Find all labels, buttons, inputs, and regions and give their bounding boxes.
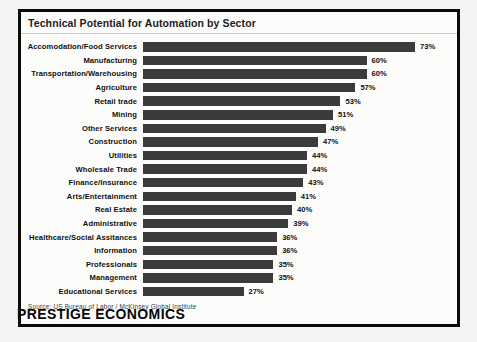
bar-row: Information36% [21, 244, 457, 258]
bar [143, 205, 292, 215]
bar-track: 43% [143, 176, 457, 190]
bar [143, 151, 307, 161]
bar-row: Retail trade53% [21, 94, 457, 108]
category-label: Manufacturing [21, 56, 143, 65]
bar-track: 57% [143, 81, 457, 95]
bar-row: Management35% [21, 271, 457, 285]
category-label: Real Estate [21, 205, 143, 214]
value-label: 39% [293, 219, 308, 228]
value-label: 27% [249, 287, 264, 296]
category-label: Management [21, 273, 143, 282]
bar-track: 60% [143, 67, 457, 81]
bar [143, 56, 367, 66]
bar-track: 53% [143, 94, 457, 108]
value-label: 35% [278, 273, 293, 282]
value-label: 40% [297, 205, 312, 214]
value-label: 51% [338, 110, 353, 119]
bar [143, 219, 288, 229]
bar-row: Finance/Insurance43% [21, 176, 457, 190]
bar-track: 47% [143, 135, 457, 149]
chart-body: Accomodation/Food Services73%Manufacturi… [21, 34, 457, 310]
category-label: Other Services [21, 124, 143, 133]
bar-track: 51% [143, 108, 457, 122]
value-label: 44% [312, 165, 327, 174]
value-label: 41% [301, 192, 316, 201]
value-label: 36% [282, 246, 297, 255]
value-label: 36% [282, 233, 297, 242]
category-label: Transportation/Warehousing [21, 69, 143, 78]
bar-track: 40% [143, 203, 457, 217]
category-label: Agriculture [21, 83, 143, 92]
bar [143, 83, 355, 93]
bar-track: 27% [143, 285, 457, 299]
chart-title: Technical Potential for Automation by Se… [21, 12, 457, 34]
value-label: 35% [278, 260, 293, 269]
category-label: Accomodation/Food Services [21, 42, 143, 51]
category-label: Utilities [21, 151, 143, 160]
bar [143, 69, 367, 79]
bar [143, 287, 244, 297]
bar [143, 192, 296, 202]
value-label: 53% [345, 97, 360, 106]
bar-row: Utilities44% [21, 149, 457, 163]
category-label: Wholesale Trade [21, 165, 143, 174]
bar [143, 137, 318, 147]
bar-row: Transportation/Warehousing60% [21, 67, 457, 81]
bar [143, 232, 277, 242]
bar-track: 60% [143, 54, 457, 68]
category-label: Information [21, 246, 143, 255]
bar [143, 273, 273, 283]
bar-row: Administrative39% [21, 217, 457, 231]
bar [143, 164, 307, 174]
bar [143, 110, 333, 120]
brand-logo: PRESTIGE ECONOMICS [17, 306, 185, 322]
category-label: Construction [21, 137, 143, 146]
bar [143, 246, 277, 256]
bar-row: Manufacturing60% [21, 54, 457, 68]
bar-track: 39% [143, 217, 457, 231]
category-label: Retail trade [21, 97, 143, 106]
value-label: 60% [372, 69, 387, 78]
bar-row: Educational Services27% [21, 285, 457, 299]
bar [143, 124, 326, 134]
value-label: 73% [420, 42, 435, 51]
bar-track: 36% [143, 244, 457, 258]
bar-row: Healthcare/Social Assitances36% [21, 230, 457, 244]
chart-frame: Technical Potential for Automation by Se… [18, 9, 460, 327]
category-label: Educational Services [21, 287, 143, 296]
bar-rows: Accomodation/Food Services73%Manufacturi… [21, 40, 457, 298]
bar [143, 96, 340, 106]
category-label: Finance/Insurance [21, 178, 143, 187]
category-label: Arts/Entertainment [21, 192, 143, 201]
bar [143, 42, 415, 52]
value-label: 44% [312, 151, 327, 160]
category-label: Administrative [21, 219, 143, 228]
category-label: Professionals [21, 260, 143, 269]
bar-track: 36% [143, 230, 457, 244]
bar-track: 41% [143, 190, 457, 204]
bar-track: 35% [143, 271, 457, 285]
bar-track: 44% [143, 162, 457, 176]
bar-row: Construction47% [21, 135, 457, 149]
value-label: 60% [372, 56, 387, 65]
bar [143, 178, 303, 188]
value-label: 47% [323, 137, 338, 146]
value-label: 49% [331, 124, 346, 133]
bar-row: Real Estate40% [21, 203, 457, 217]
bar-row: Other Services49% [21, 122, 457, 136]
bar-track: 49% [143, 122, 457, 136]
bar-row: Professionals35% [21, 258, 457, 272]
bar-row: Agriculture57% [21, 81, 457, 95]
bar-row: Mining51% [21, 108, 457, 122]
value-label: 43% [308, 178, 323, 187]
value-label: 57% [360, 83, 375, 92]
bar-track: 73% [143, 40, 457, 54]
bar [143, 260, 273, 270]
bar-row: Arts/Entertainment41% [21, 190, 457, 204]
bar-track: 44% [143, 149, 457, 163]
bar-row: Wholesale Trade44% [21, 162, 457, 176]
category-label: Mining [21, 110, 143, 119]
bar-row: Accomodation/Food Services73% [21, 40, 457, 54]
bar-track: 35% [143, 258, 457, 272]
category-label: Healthcare/Social Assitances [21, 233, 143, 242]
